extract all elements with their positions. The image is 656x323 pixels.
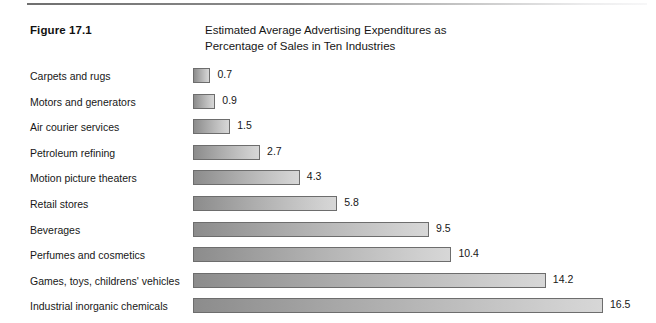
figure-title: Estimated Average Advertising Expenditur… [205,23,535,54]
chart-row: Air courier services1.5 [0,117,656,139]
bar-track [193,196,337,211]
figure-title-line-2: Percentage of Sales in Ten Industries [205,39,535,55]
bar-value-label: 1.5 [237,119,252,132]
category-label: Air courier services [30,121,119,134]
category-label: Motors and generators [30,96,136,109]
bar-value-label: 9.5 [436,222,451,235]
bar [193,298,603,313]
page-top-rule [27,3,647,5]
bar [193,119,230,134]
bar-track [193,298,603,313]
bar [193,222,429,237]
chart-row: Motion picture theaters4.3 [0,168,656,190]
bar-track [193,119,230,134]
bar-track [193,247,451,262]
bar-track [193,145,260,160]
chart-row: Retail stores5.8 [0,194,656,216]
category-label: Beverages [30,224,80,237]
bar [193,170,300,185]
category-label: Industrial inorganic chemicals [30,300,168,313]
bar [193,68,210,83]
bar-value-label: 0.9 [222,94,237,107]
bar-value-label: 5.8 [344,196,359,209]
bar-value-label: 14.2 [553,273,573,286]
chart-row: Petroleum refining2.7 [0,143,656,165]
category-label: Perfumes and cosmetics [30,249,145,262]
category-label: Petroleum refining [30,147,115,160]
category-label: Retail stores [30,198,88,211]
chart-row: Motors and generators0.9 [0,92,656,114]
chart-row: Perfumes and cosmetics10.4 [0,245,656,267]
bar-value-label: 0.7 [217,68,232,81]
bar-value-label: 2.7 [267,145,282,158]
bar-value-label: 16.5 [610,298,630,311]
chart-row: Carpets and rugs0.7 [0,66,656,88]
bar [193,94,215,109]
bar-value-label: 4.3 [307,170,322,183]
bar-track [193,68,210,83]
bar-chart: Carpets and rugs0.7Motors and generators… [0,66,656,316]
bar [193,145,260,160]
bar-track [193,273,546,288]
category-label: Motion picture theaters [30,172,137,185]
chart-row: Games, toys, childrens' vehicles14.2 [0,271,656,293]
bar-track [193,170,300,185]
figure-title-line-1: Estimated Average Advertising Expenditur… [205,23,535,39]
chart-row: Industrial inorganic chemicals16.5 [0,296,656,318]
bar-track [193,94,215,109]
category-label: Games, toys, childrens' vehicles [30,275,180,288]
bar [193,273,546,288]
bar [193,247,451,262]
bar-track [193,222,429,237]
chart-row: Beverages9.5 [0,220,656,242]
bar-value-label: 10.4 [458,247,478,260]
figure-header: Figure 17.1 Estimated Average Advertisin… [0,22,656,62]
figure-number: Figure 17.1 [30,24,92,36]
bar [193,196,337,211]
category-label: Carpets and rugs [30,70,111,83]
